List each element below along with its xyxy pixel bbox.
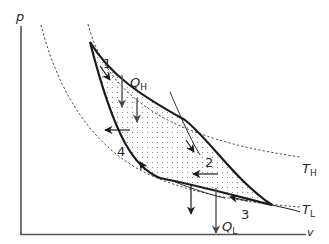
qh-label-main: Q	[130, 75, 140, 90]
state-2-label: 2	[205, 156, 213, 169]
pv-diagram	[0, 0, 329, 244]
ql-label-sub: L	[232, 226, 237, 236]
ql-label-main: Q	[222, 219, 232, 234]
cycle-area	[90, 42, 272, 205]
state-1-label: 1	[103, 57, 111, 70]
th-label-main: T	[302, 161, 310, 176]
th-label-sub: H	[310, 168, 317, 178]
y-axis-label: p	[16, 10, 24, 23]
tl-label-main: T	[302, 202, 310, 217]
state-3-label: 3	[241, 208, 249, 221]
qh-label: QH	[130, 76, 147, 92]
tl-label: TL	[302, 203, 315, 219]
x-axis-label: v	[307, 227, 314, 238]
state-4-label: 4	[117, 145, 125, 158]
qh-label-sub: H	[140, 82, 147, 92]
th-label: TH	[302, 162, 317, 178]
ql-label: QL	[222, 220, 237, 236]
tl-label-sub: L	[310, 209, 315, 219]
